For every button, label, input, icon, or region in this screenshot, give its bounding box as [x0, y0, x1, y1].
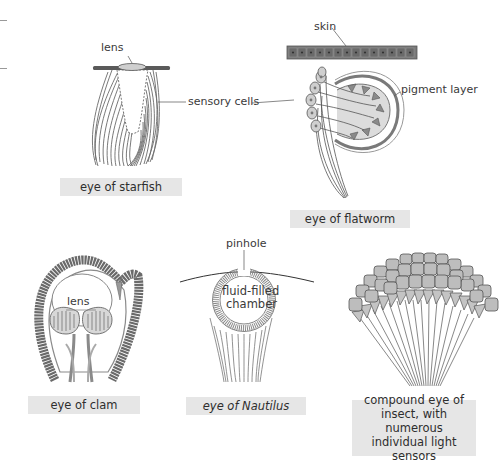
starfish-eye-drawing: [92, 56, 186, 166]
caption-starfish-text: eye of starfish: [80, 180, 162, 194]
chamber-label-line1: fluid-filled: [222, 285, 279, 297]
caption-insect: compound eye of insect, with numerous in…: [352, 400, 476, 456]
skin-label: skin: [314, 21, 336, 33]
caption-starfish: eye of starfish: [60, 178, 182, 196]
caption-insect-line3: individual light: [372, 435, 457, 449]
caption-insect-line1: compound eye of: [364, 393, 464, 407]
caption-nautilus: eye of Nautilus: [186, 397, 306, 415]
flatworm-eye-drawing: [252, 28, 417, 198]
insect-compound-eye-drawing: [349, 253, 498, 386]
caption-flatworm: eye of flatworm: [290, 210, 410, 228]
clam-eye-drawing: [39, 260, 139, 382]
caption-insect-line4: sensors: [392, 449, 436, 463]
pinhole-label: pinhole: [226, 238, 267, 250]
chamber-label-line2: chamber: [226, 298, 277, 310]
caption-nautilus-prefix: eye of: [203, 399, 242, 413]
caption-nautilus-species: Nautilus: [242, 399, 289, 413]
caption-insect-line2: insect, with numerous: [352, 407, 476, 435]
pigment-layer-label: pigment layer: [401, 84, 478, 96]
starfish-lens-label: lens: [101, 42, 124, 54]
caption-clam: eye of clam: [28, 396, 140, 414]
sensory-cells-label: sensory cells: [188, 96, 259, 108]
caption-clam-text: eye of clam: [50, 398, 117, 412]
nautilus-eye-drawing: [180, 250, 314, 382]
caption-flatworm-text: eye of flatworm: [305, 212, 395, 226]
clam-lens-label: lens: [67, 296, 90, 308]
